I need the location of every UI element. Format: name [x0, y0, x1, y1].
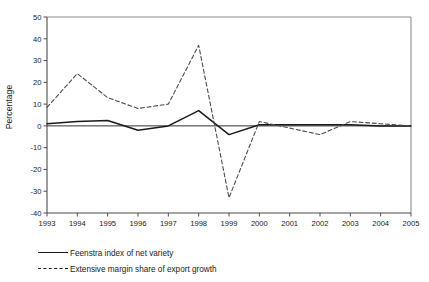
legend-label: Feenstra index of net variety	[68, 249, 173, 258]
x-tick-label: 1995	[99, 219, 116, 228]
line-chart-svg: -40-30-20-1001020304050 1993199419951996…	[0, 0, 429, 240]
x-tick-label: 2001	[281, 219, 298, 228]
y-tick-label: 30	[33, 56, 41, 65]
legend-label: Extensive margin share of export growth	[68, 265, 217, 274]
y-tick-label: 50	[33, 13, 41, 22]
y-tick-label: -30	[31, 187, 42, 196]
x-tick-label: 2002	[312, 219, 329, 228]
x-tick-label: 1996	[130, 219, 147, 228]
axis-frame	[47, 17, 411, 213]
x-tick-label: 1998	[190, 219, 207, 228]
x-tick-label: 1997	[160, 219, 177, 228]
legend-item-feenstra: Feenstra index of net variety	[38, 245, 378, 261]
y-tick-label: -40	[31, 209, 42, 218]
x-tick-label: 1994	[69, 219, 86, 228]
series-line-1	[47, 111, 411, 135]
x-tick-label: 2000	[251, 219, 268, 228]
x-axis-ticks: 1993199419951996199719981999200020012002…	[39, 213, 420, 228]
plot-area: -40-30-20-1001020304050 1993199419951996…	[0, 0, 429, 240]
x-tick-label: 2003	[342, 219, 359, 228]
x-tick-label: 2004	[372, 219, 389, 228]
y-axis-ticks: -40-30-20-1001020304050	[31, 13, 47, 218]
legend-swatch-solid-line-icon	[38, 248, 68, 258]
y-tick-label: 20	[33, 78, 41, 87]
x-tick-label: 1993	[39, 219, 56, 228]
y-tick-label: 10	[33, 100, 41, 109]
series-line-2	[47, 45, 411, 197]
data-series-group	[47, 45, 411, 197]
legend-item-extensive-margin: Extensive margin share of export growth	[38, 261, 378, 277]
chart-legend: Feenstra index of net variety Extensive …	[38, 245, 378, 277]
y-tick-label: -20	[31, 165, 42, 174]
x-tick-label: 2005	[403, 219, 420, 228]
legend-swatch-dashed-line-icon	[38, 264, 68, 274]
y-tick-label: 0	[37, 122, 41, 131]
x-tick-label: 1999	[221, 219, 238, 228]
chart-figure: Percentage -40-30-20-1001020304050 19931…	[0, 0, 429, 282]
y-tick-label: -10	[31, 143, 42, 152]
y-tick-label: 40	[33, 35, 41, 44]
